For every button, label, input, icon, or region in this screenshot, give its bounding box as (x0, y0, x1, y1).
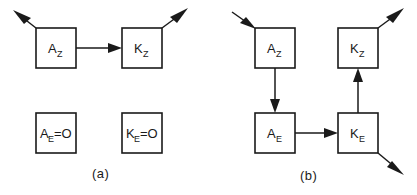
edge-a-kz-external (162, 8, 188, 28)
node-b-kz-label: K (350, 41, 359, 56)
edge-b-kz-external (378, 8, 404, 28)
panel-a: A Z K Z A E (13, 8, 188, 153)
node-b-az-sublabel: Z (276, 49, 282, 59)
edge-b-ke-external (378, 153, 404, 175)
node-a-ae: A E =O (36, 113, 76, 153)
node-a-ae-equals-zero: =O (54, 126, 72, 141)
node-b-ae-label: A (267, 126, 276, 141)
edge-b-ae-ke (295, 128, 338, 138)
node-b-ke: K E (338, 113, 378, 153)
diagram-svg: A Z K Z A E (0, 0, 417, 195)
arrow-head-right (324, 128, 338, 138)
arrow-head-down (270, 99, 280, 113)
node-b-ae-sublabel: E (276, 134, 282, 144)
node-a-kz: K Z (122, 28, 162, 68)
node-b-az: A Z (255, 28, 295, 68)
node-a-az-sublabel: Z (57, 49, 63, 59)
node-b-ke-label: K (350, 126, 359, 141)
node-a-kz-label: K (134, 41, 143, 56)
edge-b-ke-kz (353, 68, 363, 113)
arrow-head-right (108, 43, 122, 53)
edge-a-external-az (13, 10, 36, 28)
node-a-ke-equals-zero: =O (140, 126, 158, 141)
node-a-az-label: A (48, 41, 57, 56)
edge-a-az-kz (76, 43, 122, 53)
node-a-ke: K E =O (122, 113, 162, 153)
panel-b: A Z K Z A E (232, 8, 404, 175)
node-b-ae: A E (255, 113, 295, 153)
panel-a-caption: (a) (92, 166, 109, 181)
arrow-head-up (353, 68, 363, 82)
edge-b-external-az (232, 12, 256, 29)
edge-b-az-ae (270, 68, 280, 113)
panel-b-caption: (b) (300, 168, 317, 183)
figure-canvas: A Z K Z A E (0, 0, 417, 195)
node-b-ke-sublabel: E (359, 134, 365, 144)
node-b-kz-sublabel: Z (359, 49, 365, 59)
node-a-az: A Z (36, 28, 76, 68)
node-b-az-label: A (267, 41, 276, 56)
node-b-kz: K Z (338, 28, 378, 68)
node-a-kz-sublabel: Z (143, 49, 149, 59)
